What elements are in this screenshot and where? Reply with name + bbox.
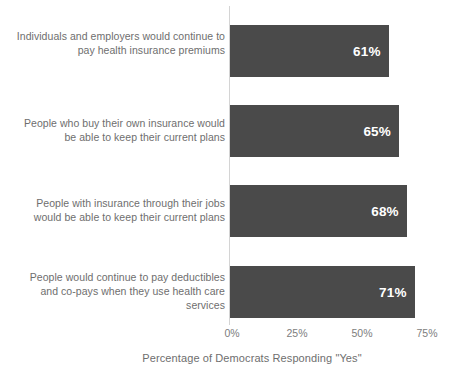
bar-value-label: 68% — [371, 204, 399, 219]
x-axis-tick-label: 25% — [286, 327, 307, 339]
bar-row: People with insurance through their jobs… — [0, 185, 460, 265]
bar-category-label: People would continue to pay deductibles… — [10, 270, 225, 312]
bar-rect[interactable]: 61% — [230, 25, 389, 77]
bar-value-label: 61% — [353, 44, 381, 59]
bar-row: Individuals and employers would continue… — [0, 25, 460, 105]
bar-rect[interactable]: 68% — [230, 185, 407, 237]
bar-value-label: 65% — [363, 124, 391, 139]
bar-category-label: People with insurance through their jobs… — [10, 196, 225, 224]
bar-category-label: People who buy their own insurance would… — [10, 116, 225, 144]
x-axis-tick-label: 50% — [351, 327, 372, 339]
x-axis-tick-label: 75% — [416, 327, 437, 339]
bar-rect[interactable]: 65% — [230, 105, 399, 157]
x-axis-title: Percentage of Democrats Responding "Yes" — [0, 352, 460, 364]
bar-rect[interactable]: 71% — [230, 266, 415, 318]
bar-value-label: 71% — [379, 285, 407, 300]
bar-chart: Individuals and employers would continue… — [0, 0, 460, 377]
x-axis-tick-label: 0% — [224, 327, 239, 339]
bar-category-label: Individuals and employers would continue… — [10, 29, 225, 57]
bar-row: People who buy their own insurance would… — [0, 105, 460, 185]
